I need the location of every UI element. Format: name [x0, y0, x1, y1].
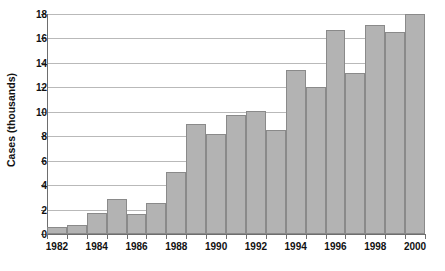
bar	[206, 134, 226, 234]
bar	[107, 199, 127, 234]
bar	[67, 225, 87, 234]
x-axis-ticks	[47, 234, 425, 240]
y-tick-label: 0	[7, 229, 47, 240]
x-tick-label: 1988	[156, 241, 196, 252]
bar	[246, 111, 266, 234]
bar	[345, 73, 365, 234]
plot-area	[47, 14, 425, 234]
x-axis-labels: 1982198419861988199019921994199619982000	[0, 241, 445, 261]
x-tick-mark	[166, 234, 167, 239]
bar	[186, 124, 206, 234]
bar	[405, 14, 425, 234]
x-tick-mark	[365, 234, 366, 239]
y-tick-label: 4	[7, 180, 47, 191]
bar	[266, 130, 286, 234]
y-tick-label: 16	[7, 33, 47, 44]
y-tick-label: 6	[7, 155, 47, 166]
y-tick-label: 14	[7, 57, 47, 68]
x-tick-mark	[47, 234, 48, 239]
x-tick-mark	[326, 234, 327, 239]
bar	[385, 32, 405, 234]
x-tick-mark	[127, 234, 128, 239]
bar-chart: Cases (thousands) 024681012141618 198219…	[0, 0, 445, 271]
bar	[226, 115, 246, 234]
x-tick-label: 1984	[77, 241, 117, 252]
x-tick-mark	[266, 234, 267, 239]
x-tick-mark	[206, 234, 207, 239]
bar	[326, 30, 346, 234]
bar	[365, 25, 385, 234]
x-tick-label: 2000	[395, 241, 435, 252]
x-tick-mark	[306, 234, 307, 239]
y-tick-label: 10	[7, 106, 47, 117]
x-tick-mark	[186, 234, 187, 239]
x-tick-mark	[246, 234, 247, 239]
x-tick-label: 1994	[276, 241, 316, 252]
x-tick-label: 1986	[117, 241, 157, 252]
bar	[166, 172, 186, 234]
y-tick-label: 2	[7, 204, 47, 215]
bar	[87, 213, 107, 234]
x-tick-label: 1998	[355, 241, 395, 252]
y-axis-ticks: 024681012141618	[0, 0, 47, 234]
y-tick-label: 8	[7, 131, 47, 142]
bar	[127, 214, 147, 234]
bars-layer	[47, 14, 425, 234]
x-tick-label: 1996	[315, 241, 355, 252]
x-tick-mark	[286, 234, 287, 239]
x-tick-mark	[67, 234, 68, 239]
x-tick-label: 1990	[196, 241, 236, 252]
y-tick-label: 12	[7, 82, 47, 93]
y-tick-label: 18	[7, 9, 47, 20]
x-tick-mark	[385, 234, 386, 239]
x-tick-mark	[226, 234, 227, 239]
x-tick-mark	[146, 234, 147, 239]
x-tick-label: 1992	[236, 241, 276, 252]
x-tick-mark	[107, 234, 108, 239]
bar	[47, 227, 67, 234]
x-tick-mark	[87, 234, 88, 239]
x-tick-mark	[425, 234, 426, 239]
bar	[286, 70, 306, 234]
bar	[146, 203, 166, 234]
x-tick-mark	[405, 234, 406, 239]
bar	[306, 87, 326, 234]
x-tick-mark	[345, 234, 346, 239]
x-tick-label: 1982	[37, 241, 77, 252]
